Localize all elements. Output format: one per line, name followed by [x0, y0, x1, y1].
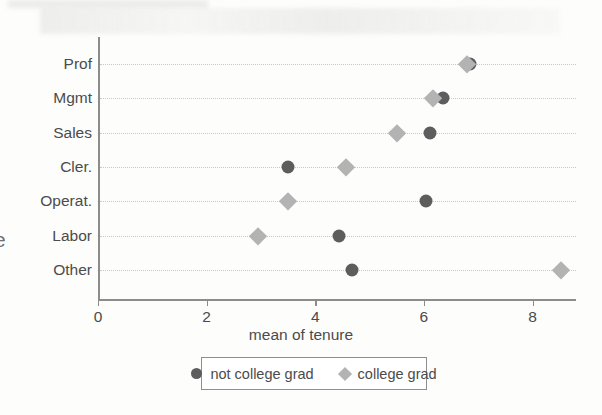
- data-point-circle: [333, 229, 346, 242]
- y-axis-line: [98, 37, 100, 299]
- clipped-axis-glyph: e: [0, 228, 6, 252]
- chart-screenshot: e ProfMgmtSalesCler.Operat.LaborOther 02…: [0, 0, 602, 415]
- y-axis-label-prof: Prof: [6, 55, 92, 73]
- legend-item-not-college-grad: not college grad: [191, 366, 313, 382]
- data-point-diamond: [249, 227, 267, 245]
- x-tick-label: 8: [528, 308, 537, 326]
- plot-area: ProfMgmtSalesCler.Operat.LaborOther 0246…: [98, 37, 576, 299]
- y-axis-label-labor: Labor: [6, 227, 92, 245]
- x-tick: [533, 299, 534, 306]
- data-point-circle: [423, 126, 436, 139]
- x-tick-label: 0: [94, 308, 103, 326]
- data-point-diamond: [337, 158, 355, 176]
- gridline: [100, 98, 576, 99]
- x-tick-label: 4: [311, 308, 320, 326]
- scan-artifact-band: [40, 8, 560, 34]
- scan-artifact-top: [8, 0, 208, 8]
- x-tick: [98, 299, 99, 306]
- gridline: [100, 270, 576, 271]
- data-point-circle: [345, 264, 358, 277]
- gridline: [100, 201, 576, 202]
- x-tick: [424, 299, 425, 306]
- y-axis-label-other: Other: [6, 261, 92, 279]
- gridline: [100, 133, 576, 134]
- y-axis-label-mgmt: Mgmt: [6, 89, 92, 107]
- data-point-diamond: [279, 193, 297, 211]
- legend-label: not college grad: [210, 366, 313, 382]
- data-point-circle: [419, 195, 432, 208]
- x-axis-line: [98, 299, 576, 301]
- data-point-diamond: [388, 124, 406, 142]
- legend-label: college grad: [358, 366, 437, 382]
- legend-item-college-grad: college grad: [340, 366, 437, 382]
- y-axis-label-sales: Sales: [6, 124, 92, 142]
- gridline: [100, 64, 576, 65]
- circle-marker-icon: [191, 368, 202, 379]
- data-point-diamond: [552, 261, 570, 279]
- x-tick-label: 2: [202, 308, 211, 326]
- x-tick: [207, 299, 208, 306]
- data-point-circle: [281, 160, 294, 173]
- diamond-marker-icon: [338, 366, 352, 380]
- y-axis-label-cler: Cler.: [6, 158, 92, 176]
- chart-legend: not college grad college grad: [201, 357, 427, 390]
- x-tick: [315, 299, 316, 306]
- y-axis-category-labels: ProfMgmtSalesCler.Operat.LaborOther: [6, 37, 92, 299]
- y-axis-label-operat: Operat.: [6, 192, 92, 210]
- x-axis-title: mean of tenure: [0, 326, 602, 344]
- x-tick-label: 6: [420, 308, 429, 326]
